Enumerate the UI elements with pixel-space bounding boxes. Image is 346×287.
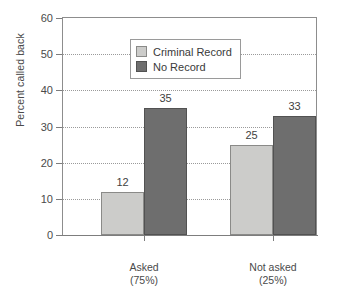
bar-value-label: 12	[116, 176, 128, 188]
legend: Criminal Record No Record	[130, 39, 241, 79]
bar	[144, 108, 187, 235]
x-category-label: Not asked(25%)	[249, 261, 296, 287]
y-tick-label: 30	[41, 121, 53, 133]
gridline	[63, 90, 316, 91]
y-tick-label: 10	[41, 193, 53, 205]
bar	[273, 116, 316, 235]
y-tick-label: 60	[41, 12, 53, 24]
x-tick-mark	[273, 236, 274, 241]
y-tick-mark	[56, 90, 62, 91]
x-category-label: Asked(75%)	[129, 261, 158, 287]
bar-chart-figure: Percent called back 0102030405060 123525…	[0, 0, 346, 287]
legend-label-no-record: No Record	[153, 61, 206, 73]
legend-item-no-record: No Record	[136, 59, 232, 74]
y-tick-label: 20	[41, 157, 53, 169]
bar-value-label: 35	[159, 92, 171, 104]
y-tick-label: 40	[41, 84, 53, 96]
plot-area: 0102030405060 12352533 Asked(75%)Not ask…	[62, 17, 317, 236]
y-tick-label: 0	[47, 229, 53, 241]
x-tick-mark	[144, 236, 145, 241]
axis-line-top	[62, 17, 317, 18]
legend-item-criminal-record: Criminal Record	[136, 44, 232, 59]
x-category-percent: (75%)	[129, 274, 158, 287]
y-tick-label: 50	[41, 48, 53, 60]
bar-value-label: 25	[245, 129, 257, 141]
axis-line-right	[316, 17, 317, 236]
legend-label-criminal-record: Criminal Record	[153, 46, 232, 58]
y-tick-mark	[56, 163, 62, 164]
y-tick-mark	[56, 199, 62, 200]
y-tick-mark	[56, 54, 62, 55]
legend-swatch-icon-no-record	[136, 61, 147, 72]
x-category-percent: (25%)	[249, 274, 296, 287]
legend-swatch-icon-criminal-record	[136, 46, 147, 57]
bar	[101, 192, 144, 235]
bar	[230, 145, 273, 235]
bar-value-label: 33	[288, 100, 300, 112]
y-tick-mark	[56, 127, 62, 128]
axis-baseline-extension	[56, 235, 318, 236]
y-tick-mark	[56, 18, 62, 19]
y-axis-title: Percent called back	[14, 0, 26, 160]
